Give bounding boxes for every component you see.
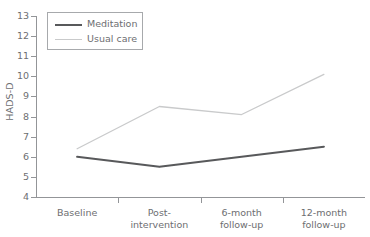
legend-line-swatch-usual-care [55,39,82,40]
legend-label-meditation: Meditation [87,18,137,29]
meditation-line [77,147,324,167]
legend-label-usual-care: Usual care [87,33,137,44]
usual-care-line [77,74,324,148]
y-axis-tick-mark [31,137,36,138]
y-axis-tick-mark [31,177,36,178]
line-chart-figure: HADS-D 45678910111213 BaselinePost-inter… [0,0,370,237]
y-axis-tick-mark [31,96,36,97]
y-axis-tick-mark [31,36,36,37]
y-axis-tick-mark [31,117,36,118]
y-axis-tick-mark [31,56,36,57]
y-axis-tick-mark [31,157,36,158]
y-axis-tick-mark [31,76,36,77]
legend-item-meditation: Meditation [48,17,144,32]
y-axis-tick-mark [31,197,36,198]
chart-legend: Meditation Usual care [47,12,143,50]
y-axis-tick-mark [31,16,36,17]
legend-line-swatch-meditation [55,24,82,26]
legend-item-usual-care: Usual care [48,32,144,47]
